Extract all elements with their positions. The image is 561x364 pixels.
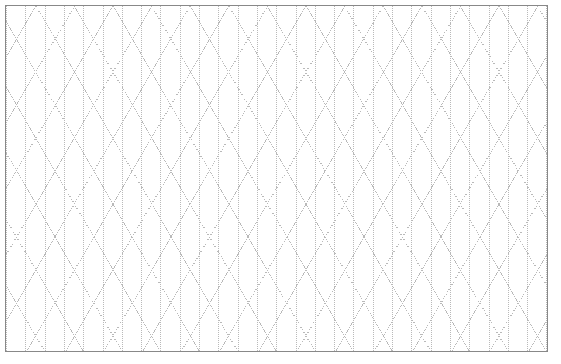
grid-paper-sheet	[5, 5, 548, 352]
triangular-dot-grid	[6, 6, 547, 351]
grid-paper-surface	[6, 6, 547, 351]
page-canvas	[0, 0, 561, 364]
